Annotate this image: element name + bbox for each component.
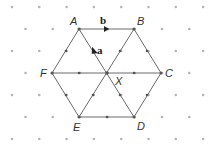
vertex-label-f: F xyxy=(40,68,47,79)
vector-label-a: a xyxy=(97,45,103,56)
vertex-label-x: X xyxy=(115,76,122,87)
vertex-label-a: A xyxy=(70,16,77,27)
hexagon-diagram: A B C D E F X b a xyxy=(0,0,212,151)
vertex-label-e: E xyxy=(73,122,80,133)
vector-b-arrow-icon xyxy=(104,26,109,32)
vertex-label-c: C xyxy=(165,68,173,79)
vertex-label-d: D xyxy=(137,121,145,132)
vertex-label-b: B xyxy=(137,16,144,27)
vector-label-b: b xyxy=(100,15,106,26)
